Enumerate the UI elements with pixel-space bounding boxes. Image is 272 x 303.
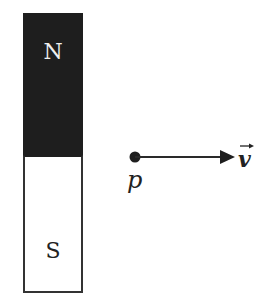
velocity-vector-drawing <box>0 0 272 303</box>
particle-label: p <box>127 166 142 194</box>
arrowhead-icon <box>220 150 235 164</box>
velocity-label: v <box>238 146 251 172</box>
